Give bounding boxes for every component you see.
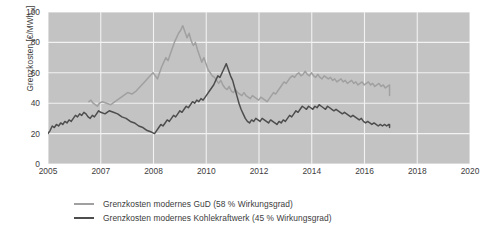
y-axis-tick-label: 100 <box>26 7 40 17</box>
x-axis-tick-label: 2008 <box>144 166 163 176</box>
plot-svg <box>48 12 470 164</box>
legend-item-label: Grenzkosten modernes GuD (58 % Wirkungsg… <box>103 199 293 209</box>
x-axis-tick-label: 2020 <box>461 166 480 176</box>
series-line-gud <box>89 26 390 107</box>
legend-line-swatch <box>74 203 94 205</box>
x-axis-tick-label: 2007 <box>91 166 110 176</box>
y-axis-tick-label: 20 <box>31 129 40 139</box>
x-axis-tick-label: 2016 <box>355 166 374 176</box>
chart-legend: Grenzkosten modernes GuD (58 % Wirkungsg… <box>74 197 474 225</box>
y-axis-tick-label: 60 <box>31 68 40 78</box>
marginal-cost-line-chart: Grenzkosten [€/MWhel] 020406080100 20052… <box>0 0 486 240</box>
y-axis-tick-label: 80 <box>31 37 40 47</box>
x-axis-tick-labels: 200520072008201020122014201620182020 <box>48 166 470 184</box>
legend-item-label: Grenzkosten modernes Kohlekraftwerk (45 … <box>103 213 332 223</box>
plot-area <box>48 12 470 164</box>
x-axis-tick-label: 2014 <box>302 166 321 176</box>
gridlines <box>48 12 470 164</box>
x-axis-tick-label: 2012 <box>250 166 269 176</box>
x-axis-tick-label: 2010 <box>197 166 216 176</box>
legend-item[interactable]: Grenzkosten modernes Kohlekraftwerk (45 … <box>74 211 474 225</box>
x-axis-tick-label: 2005 <box>39 166 58 176</box>
y-axis-tick-labels: 020406080100 <box>0 0 44 240</box>
y-axis-tick-label: 40 <box>31 98 40 108</box>
legend-line-swatch <box>74 217 94 219</box>
legend-item[interactable]: Grenzkosten modernes GuD (58 % Wirkungsg… <box>74 197 474 211</box>
x-axis-tick-label: 2018 <box>408 166 427 176</box>
series-line-kohlekraftwerk <box>48 64 390 134</box>
